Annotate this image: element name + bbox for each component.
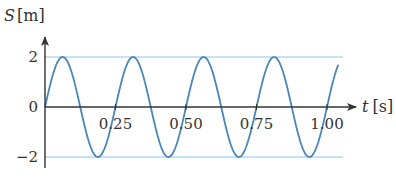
- x-axis-label: t[s]: [362, 97, 393, 116]
- y-tick-label: −2: [16, 148, 38, 166]
- y-axis-label: S[m]: [4, 6, 45, 25]
- x-tick-labels: 0.250.500.751.00: [99, 115, 344, 133]
- y-tick-label: 2: [28, 48, 38, 66]
- x-tick-label: 1.00: [310, 115, 343, 133]
- x-tick-label: 0.25: [99, 115, 132, 133]
- x-tick-label: 0.50: [169, 115, 202, 133]
- y-tick-label: 0: [28, 98, 38, 116]
- x-tick-label: 0.75: [240, 115, 273, 133]
- y-tick-labels: 20−2: [16, 48, 38, 166]
- sine-wave-chart: 0.250.500.751.00 20−2 S[m] t[s]: [0, 0, 396, 177]
